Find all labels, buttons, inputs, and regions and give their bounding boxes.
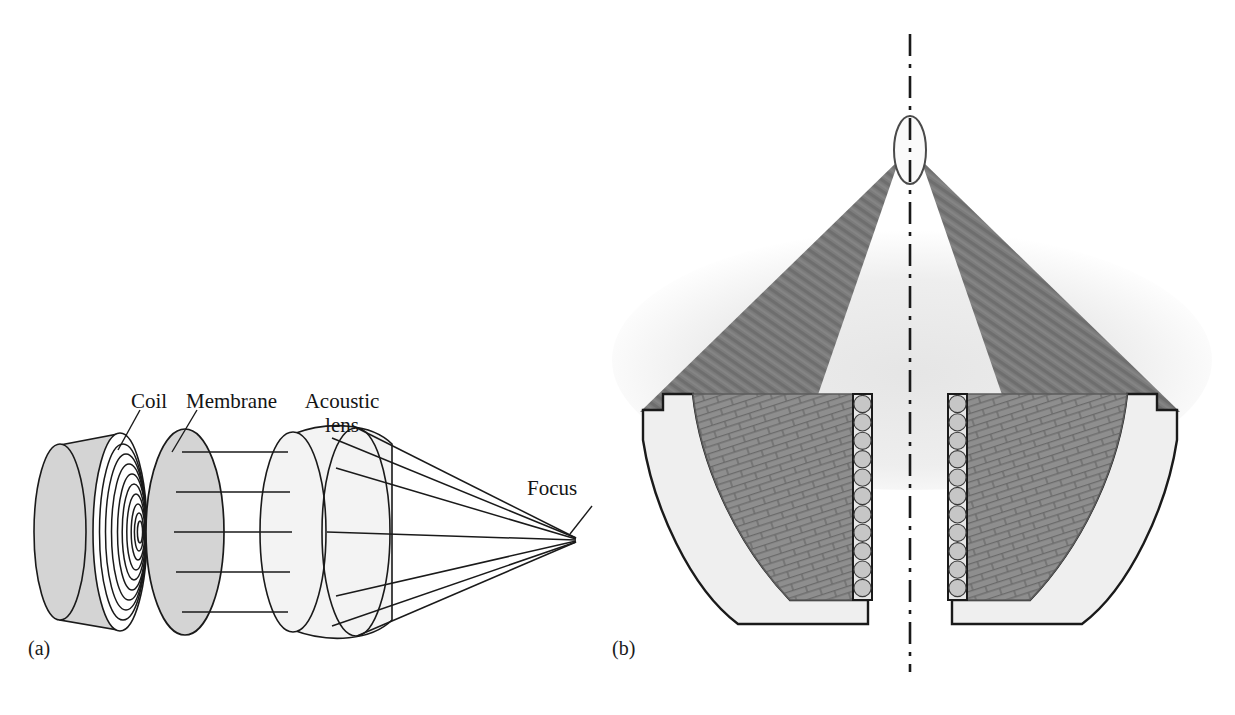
panel-label-b: (b) [612, 637, 635, 660]
label-membrane: Membrane [186, 390, 277, 414]
bead [949, 543, 966, 560]
bead [949, 506, 966, 523]
coil-front-face [93, 433, 147, 631]
bead-list-left [854, 395, 871, 596]
figure-canvas: Coil Membrane Acoustic lens Focus (a) (b… [0, 0, 1235, 715]
bead [854, 524, 871, 541]
bead [854, 506, 871, 523]
panel-b [612, 34, 1212, 672]
bead [854, 543, 871, 560]
bead [854, 579, 871, 596]
bead [854, 561, 871, 578]
figure-svg [0, 0, 1235, 715]
bead [949, 414, 966, 431]
bead [949, 451, 966, 468]
bead [854, 451, 871, 468]
bead [854, 395, 871, 412]
label-focus: Focus [527, 477, 577, 501]
label-acoustic-lens: Acoustic lens [300, 390, 384, 437]
transducer-half-right [948, 394, 1177, 624]
coil-disc-assembly [34, 433, 147, 631]
bead [949, 579, 966, 596]
transducer-half-left [643, 394, 872, 624]
bead [949, 561, 966, 578]
bead-column-left [853, 394, 872, 600]
bead [854, 487, 871, 504]
bead [854, 432, 871, 449]
label-coil: Coil [131, 390, 167, 414]
bead [854, 469, 871, 486]
panel-a [34, 410, 592, 638]
bead-column-right [948, 394, 967, 600]
bead [949, 487, 966, 504]
bead [949, 524, 966, 541]
bead-list-right [949, 395, 966, 596]
bead [854, 414, 871, 431]
bead [949, 432, 966, 449]
bead [949, 395, 966, 412]
coil-back-face [34, 444, 86, 620]
panel-label-a: (a) [28, 637, 50, 660]
bead [949, 469, 966, 486]
